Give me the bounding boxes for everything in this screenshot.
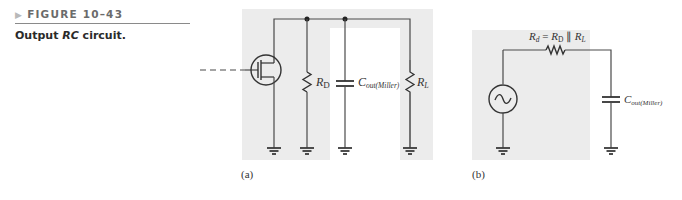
panel-label-b: (b) xyxy=(472,168,485,181)
cout-label-b: Cout(Miller) xyxy=(624,93,663,107)
ground-icon xyxy=(604,148,618,154)
panel-bg-a-right xyxy=(400,28,433,160)
panel-label-a: (a) xyxy=(241,168,254,181)
circuit-a: RD Cout(Miller) RL (a) xyxy=(200,9,433,181)
circuit-b: Cout(Miller) Rd = RD ∥ RL (b) xyxy=(472,30,663,181)
capacitor-icon xyxy=(602,97,620,148)
ground-icon xyxy=(338,148,352,154)
capacitor-icon xyxy=(336,19,354,148)
cout-label: Cout(Miller) xyxy=(358,75,400,90)
circuit-diagrams: RD Cout(Miller) RL (a) xyxy=(0,0,682,200)
